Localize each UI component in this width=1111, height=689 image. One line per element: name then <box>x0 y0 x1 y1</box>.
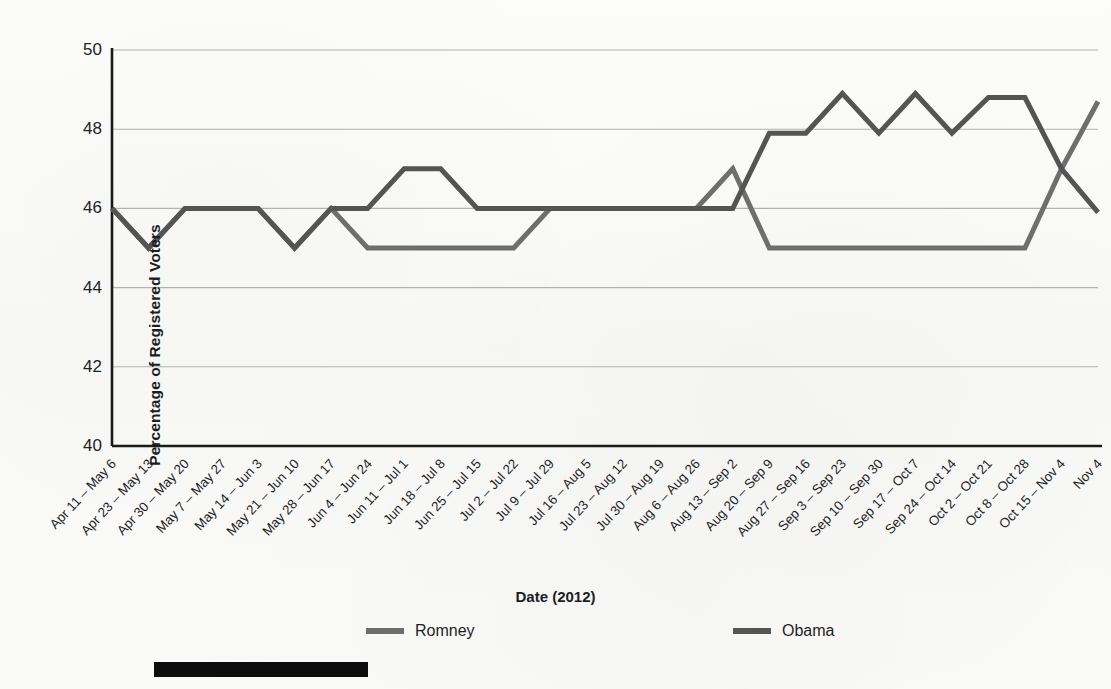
y-tick-label: 42 <box>58 357 102 377</box>
legend-label: Obama <box>782 622 834 640</box>
line-chart: Percentage of Registered Voters 40424446… <box>0 0 1111 689</box>
plot-area <box>0 0 1111 689</box>
y-tick-label: 50 <box>58 40 102 60</box>
y-tick-label: 48 <box>58 119 102 139</box>
x-axis-title: Date (2012) <box>0 588 1111 605</box>
y-tick-label: 46 <box>58 198 102 218</box>
legend-swatch-obama <box>733 628 771 634</box>
redaction-bar <box>154 662 368 677</box>
legend-label: Romney <box>415 622 475 640</box>
series-line-romney <box>112 101 1098 248</box>
y-axis-title: Percentage of Registered Voters <box>146 224 164 465</box>
legend-item-romney[interactable]: Romney <box>366 622 475 640</box>
legend-swatch-romney <box>366 628 404 634</box>
y-tick-label: 44 <box>58 278 102 298</box>
y-tick-label: 40 <box>58 436 102 456</box>
data-series-layer <box>112 94 1098 248</box>
series-line-obama <box>112 94 1098 248</box>
legend-item-obama[interactable]: Obama <box>733 622 834 640</box>
chart-legend: RomneyObama <box>0 622 1111 650</box>
